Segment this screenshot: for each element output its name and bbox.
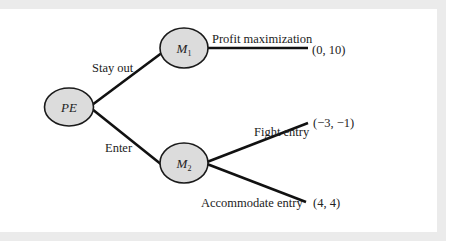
node-m1-text: M [177,41,188,56]
node-m2-text: M [177,156,188,171]
edge-enter [92,109,162,165]
edge-label-stay-out: Stay out [92,62,133,75]
edge-stay-out [92,52,163,105]
node-pe-label: PE [49,101,89,117]
payoff-accommodate-entry: (4, 4) [313,197,340,210]
edge-label-profit-maximization: Profit maximization [212,33,312,46]
node-m1-subscript: 1 [187,49,191,58]
edge-label-fight-entry: Fight entry [254,126,309,139]
node-pe-text: PE [61,100,77,115]
payoff-fight-entry: (−3, −1) [313,117,354,130]
edge-label-enter: Enter [105,142,132,155]
payoff-stay-out: (0, 10) [312,44,345,57]
node-m2-subscript: 2 [187,164,191,173]
node-m1-label: M1 [164,42,204,58]
edge-label-accommodate-entry: Accommodate entry [201,197,303,210]
node-m2-label: M2 [164,157,204,173]
